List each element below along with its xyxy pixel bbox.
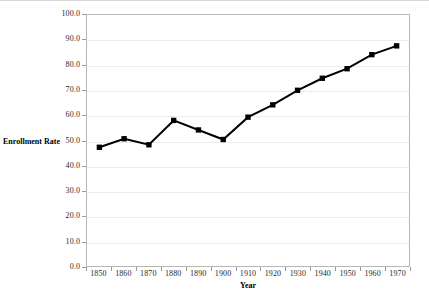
x-axis-tick-mark (385, 267, 386, 271)
x-axis-tick-mark (111, 267, 112, 271)
series-markers (97, 43, 400, 150)
x-axis-tick-label: 1950 (339, 269, 355, 278)
x-axis-tick-mark (211, 267, 212, 271)
data-point-marker (394, 43, 399, 48)
y-axis-tick-label: 90.0 (66, 35, 80, 43)
x-axis-tick-label: 1890 (190, 269, 206, 278)
x-axis-tick-label: 1870 (140, 269, 156, 278)
y-axis-tick-label: 10.0 (66, 238, 80, 246)
x-axis-tick-label: 1850 (90, 269, 106, 278)
y-axis-tick-label: 20.0 (66, 212, 80, 220)
data-point-marker (344, 66, 349, 71)
data-point-marker (320, 76, 325, 81)
x-axis-tick-label: 1880 (165, 269, 181, 278)
x-axis-tick-mark (186, 267, 187, 271)
y-axis-tick-labels: 0.010.020.030.040.050.060.070.080.090.01… (0, 0, 84, 295)
data-point-marker (196, 127, 201, 132)
plot-area (86, 14, 410, 267)
data-point-marker (121, 136, 126, 141)
x-axis-tick-mark (360, 267, 361, 271)
x-axis-tick-mark (310, 267, 311, 271)
data-point-marker (369, 52, 374, 57)
y-axis-tick-label: 100.0 (62, 10, 81, 18)
data-point-marker (221, 137, 226, 142)
x-axis-tick-mark (260, 267, 261, 271)
x-axis-tick-mark (285, 267, 286, 271)
data-point-marker (295, 88, 300, 93)
x-axis-tick-mark (161, 267, 162, 271)
x-axis-tick-label: 1900 (215, 269, 231, 278)
y-axis-tick-label: 80.0 (66, 61, 80, 69)
x-axis-tick-label: 1860 (115, 269, 131, 278)
data-point-marker (245, 114, 250, 119)
y-axis-tick-label: 70.0 (66, 86, 80, 94)
x-axis-tick-mark (236, 267, 237, 271)
x-axis-tick-mark (410, 267, 411, 271)
data-point-marker (270, 102, 275, 107)
x-axis-tick-label: 1960 (364, 269, 380, 278)
series-line (99, 46, 396, 147)
x-axis-tick-label: 1920 (265, 269, 281, 278)
y-axis-tick-label: 50.0 (66, 137, 80, 145)
x-axis-tick-label: 1970 (389, 269, 405, 278)
x-axis-title: Year (86, 281, 410, 290)
y-axis-tick-label: 60.0 (66, 111, 80, 119)
data-series-layer (87, 15, 409, 266)
data-point-marker (146, 142, 151, 147)
data-point-marker (171, 118, 176, 123)
data-point-marker (97, 145, 102, 150)
enrollment-rate-line-chart: Enrollment Rate 0.010.020.030.040.050.06… (0, 0, 429, 295)
x-axis-tick-label: 1910 (240, 269, 256, 278)
x-axis-tick-mark (86, 267, 87, 271)
x-axis-tick-label: 1930 (290, 269, 306, 278)
y-axis-tick-label: 30.0 (66, 187, 80, 195)
x-axis-tick-label: 1940 (315, 269, 331, 278)
x-axis-tick-mark (136, 267, 137, 271)
x-axis-tick-mark (335, 267, 336, 271)
y-axis-tick-label: 0.0 (70, 263, 80, 271)
y-axis-tick-label: 40.0 (66, 162, 80, 170)
